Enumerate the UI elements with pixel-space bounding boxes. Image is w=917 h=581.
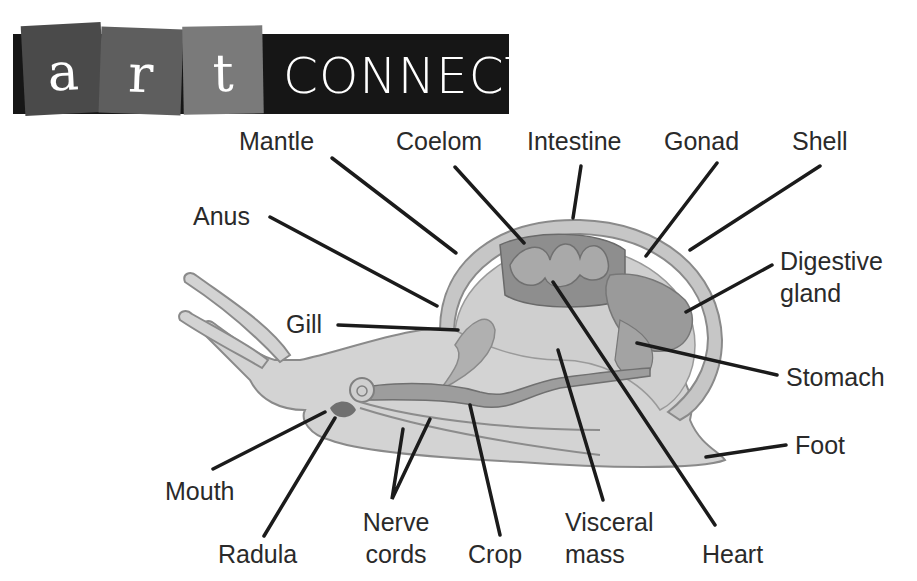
label-crop: Crop — [468, 540, 522, 569]
label-foot: Foot — [795, 431, 845, 460]
leader-gonad — [646, 163, 717, 256]
leader-anus — [270, 217, 437, 306]
leader-coelom — [455, 167, 524, 243]
label-anus: Anus — [193, 202, 250, 231]
label-digestive-gland-line1: Digestive — [780, 247, 883, 276]
leader-intestine — [573, 166, 581, 218]
buccal-ring — [350, 378, 374, 402]
leader-mantle — [332, 158, 456, 253]
label-mantle: Mantle — [239, 127, 314, 156]
label-digestive-gland-line2: gland — [780, 279, 841, 308]
intestine — [510, 244, 608, 287]
leader-shell — [690, 166, 820, 250]
label-nerve-cords-line2: cords — [352, 540, 440, 569]
label-coelom: Coelom — [396, 127, 482, 156]
label-mouth: Mouth — [165, 477, 234, 506]
label-heart: Heart — [702, 540, 763, 569]
label-intestine: Intestine — [527, 127, 622, 156]
label-nerve-cords-line1: Nerve — [352, 508, 440, 537]
label-visceral-mass-line1: Visceral — [565, 508, 653, 537]
label-gill: Gill — [286, 310, 322, 339]
leader-foot — [706, 445, 786, 457]
label-gonad: Gonad — [664, 127, 739, 156]
label-shell: Shell — [792, 127, 848, 156]
label-visceral-mass-line2: mass — [565, 540, 625, 569]
label-stomach: Stomach — [786, 363, 885, 392]
label-radula: Radula — [218, 540, 297, 569]
